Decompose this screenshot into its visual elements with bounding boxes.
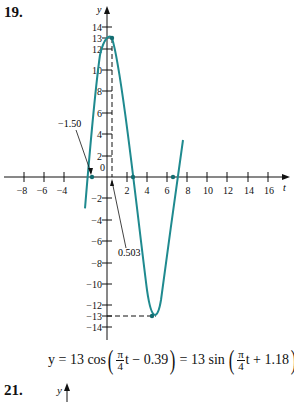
next-graph-axis-arrow [0,0,294,402]
